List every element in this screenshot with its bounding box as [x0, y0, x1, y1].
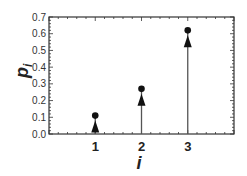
- y-tick-label: 0.5: [32, 45, 46, 56]
- stem-chart: 0.00.10.20.30.40.50.60.7 123 pi i: [0, 0, 247, 176]
- x-axis-label: i: [136, 153, 142, 173]
- x-axis-ticks: 123: [92, 139, 192, 154]
- y-axis-ticks: 0.00.10.20.30.40.50.60.7: [32, 12, 46, 140]
- stem-point: [184, 27, 192, 134]
- stem-point: [91, 112, 99, 134]
- x-tick-label: 2: [138, 139, 145, 154]
- y-tick-label: 0.1: [32, 112, 46, 123]
- marker-dot: [184, 27, 191, 34]
- marker-dot: [138, 86, 145, 93]
- arrowhead-icon: [91, 121, 99, 133]
- marker-dot: [92, 112, 99, 119]
- arrowhead-icon: [138, 94, 146, 106]
- x-tick-label: 3: [184, 139, 191, 154]
- y-tick-label: 0.7: [32, 12, 46, 23]
- y-tick-label: 0.0: [32, 129, 46, 140]
- x-tick-label: 1: [92, 139, 99, 154]
- arrowhead-icon: [184, 35, 192, 47]
- data-stems: [91, 27, 192, 134]
- stem-point: [138, 86, 146, 134]
- y-tick-label: 0.6: [32, 28, 46, 39]
- y-tick-label: 0.2: [32, 95, 46, 106]
- y-axis-label: pi: [12, 63, 35, 79]
- y-tick-label: 0.3: [32, 78, 46, 89]
